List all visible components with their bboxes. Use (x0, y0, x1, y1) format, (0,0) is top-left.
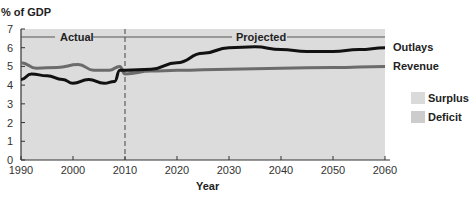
y-tick-label: 4 (7, 79, 13, 91)
x-tick-label: 1990 (9, 164, 33, 176)
y-tick-label: 5 (7, 60, 13, 72)
legend-surplus-label: Surplus (428, 92, 469, 104)
x-tick-label: 2030 (217, 164, 241, 176)
x-tick-label: 2050 (321, 164, 345, 176)
legend-deficit-label: Deficit (428, 111, 462, 123)
x-tick-label: 2060 (373, 164, 397, 176)
actual-label: Actual (60, 31, 94, 43)
y-tick-label: 2 (7, 117, 13, 129)
y-tick-label: 1 (7, 135, 13, 147)
x-tick-label: 2040 (269, 164, 293, 176)
x-axis-title: Year (196, 180, 220, 192)
x-tick-label: 2020 (165, 164, 189, 176)
x-tick-label: 2010 (113, 164, 137, 176)
y-axis-title: % of GDP (1, 6, 51, 18)
x-tick-label: 2000 (61, 164, 85, 176)
surplus-swatch (411, 92, 425, 104)
y-tick-label: 7 (7, 23, 13, 35)
outlays-series-label: Outlays (393, 41, 433, 53)
chart-svg: 01234567 1990200020102020203020402050206… (0, 0, 471, 203)
revenue-series-label: Revenue (393, 60, 439, 72)
y-tick-label: 6 (7, 42, 13, 54)
projected-label: Projected (236, 31, 286, 43)
y-tick-label: 3 (7, 98, 13, 110)
deficit-swatch (411, 111, 425, 123)
plot-area (21, 29, 385, 160)
